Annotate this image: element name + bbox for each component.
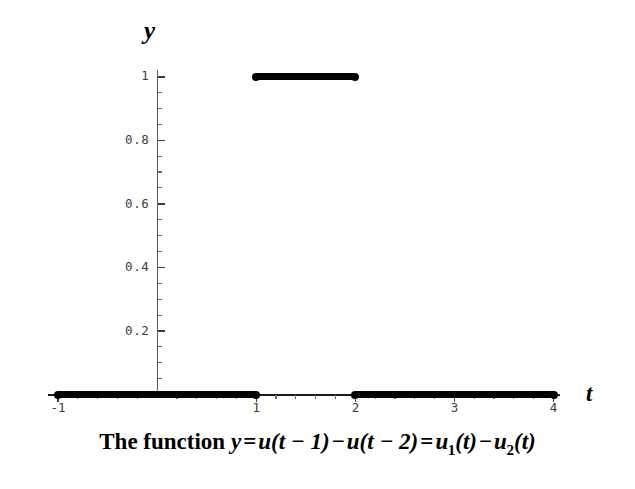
y-tick-label: 0.4 <box>101 261 149 274</box>
y-tick-minor <box>158 219 162 220</box>
y-tick-minor <box>158 315 162 316</box>
caption-arg-2: (t) <box>514 429 536 454</box>
caption-equals-2: = <box>418 429 435 454</box>
data-endpoint-dot <box>252 391 260 399</box>
y-tick-label: 0.2 <box>101 325 149 338</box>
y-tick-minor <box>158 187 162 188</box>
caption-term-2: (t − 2) <box>360 429 419 454</box>
t-tick-minor <box>275 395 276 399</box>
data-segment-low-right <box>355 391 553 398</box>
figure-container: 0.20.40.60.81 -11234 y t The function y=… <box>0 0 635 489</box>
t-axis-label: t <box>586 382 592 405</box>
caption-u-2: u <box>347 429 360 454</box>
y-tick-major <box>158 76 165 78</box>
caption-minus-1: − <box>330 429 347 454</box>
y-tick-minor <box>158 346 162 347</box>
data-endpoint-dot <box>54 391 62 399</box>
caption-u-3: u <box>435 429 448 454</box>
y-tick-minor <box>158 156 162 157</box>
y-tick-minor <box>158 362 162 363</box>
y-tick-minor <box>158 108 162 109</box>
t-tick-label: 3 <box>435 402 475 415</box>
t-tick-label: -1 <box>38 402 78 415</box>
t-tick-minor <box>295 395 296 399</box>
data-endpoint-dot <box>351 73 359 81</box>
caption-u-4: u <box>494 429 507 454</box>
t-tick-minor <box>315 395 316 399</box>
y-axis-label: y <box>144 18 155 43</box>
caption-arg-1: (t) <box>455 429 477 454</box>
y-tick-minor <box>158 378 162 379</box>
y-tick-major <box>158 140 165 142</box>
data-endpoint-dot <box>550 391 558 399</box>
y-tick-major <box>158 267 165 269</box>
y-tick-label: 1 <box>101 70 149 83</box>
y-tick-label: 0.8 <box>101 134 149 147</box>
t-tick-minor <box>335 395 336 399</box>
caption-subscript-2: 2 <box>506 441 514 458</box>
figure-caption: The function y=u(t − 1)−u(t − 2)=u1(t)−u… <box>0 428 635 459</box>
caption-y: y <box>231 429 241 454</box>
y-tick-minor <box>158 92 162 93</box>
t-tick-label: 2 <box>335 402 375 415</box>
y-tick-minor <box>158 299 162 300</box>
caption-minus-2: − <box>477 429 494 454</box>
caption-prefix: The function <box>99 429 231 454</box>
y-tick-minor <box>158 235 162 236</box>
y-tick-minor <box>158 171 162 172</box>
y-tick-minor <box>158 283 162 284</box>
y-tick-major <box>158 203 165 205</box>
y-tick-minor <box>158 251 162 252</box>
data-segment-high <box>256 73 355 80</box>
caption-equals-1: = <box>241 429 258 454</box>
plot-area: 0.20.40.60.81 -11234 y t <box>0 0 635 420</box>
t-tick-label: 1 <box>236 402 276 415</box>
caption-term-1: (t − 1) <box>271 429 330 454</box>
y-tick-label: 0.6 <box>101 198 149 211</box>
caption-u-1: u <box>258 429 271 454</box>
y-tick-minor <box>158 124 162 125</box>
y-tick-major <box>158 330 165 332</box>
data-segment-low-left <box>58 391 256 398</box>
t-tick-label: 4 <box>534 402 574 415</box>
